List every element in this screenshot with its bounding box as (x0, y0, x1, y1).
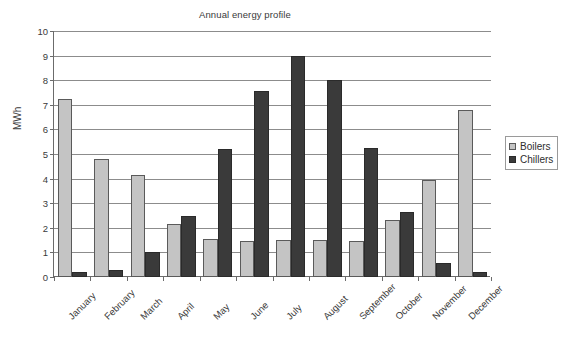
bar-chillers-february[interactable] (109, 270, 124, 277)
x-tick-label-august: August (321, 293, 350, 322)
bar-boilers-november[interactable] (422, 180, 437, 277)
chart-title: Annual energy profile (0, 9, 490, 20)
bar-boilers-may[interactable] (203, 239, 218, 277)
x-tick-mark (90, 277, 91, 281)
bar-chillers-october[interactable] (400, 212, 415, 277)
bar-chillers-august[interactable] (327, 80, 342, 277)
x-tick-mark (491, 277, 492, 281)
legend-item-boilers[interactable]: Boilers (509, 140, 553, 153)
bar-group (90, 31, 126, 277)
y-tick-label: 6 (43, 124, 48, 135)
x-tick-mark (54, 277, 55, 281)
legend-swatch-chillers-icon (509, 156, 516, 163)
y-tick-label: 2 (43, 222, 48, 233)
x-tick-label-april: April (175, 301, 196, 322)
y-axis-label: MWh (12, 107, 23, 130)
bar-group (127, 31, 163, 277)
x-tick-label-july: July (284, 302, 304, 322)
bar-chillers-july[interactable] (291, 56, 306, 277)
bar-group (200, 31, 236, 277)
bar-group (418, 31, 454, 277)
bar-group (309, 31, 345, 277)
y-tick-label: 9 (43, 50, 48, 61)
bar-group (345, 31, 381, 277)
legend-label: Boilers (520, 141, 551, 152)
y-tick-label: 1 (43, 247, 48, 258)
x-tick-label-november: November (430, 283, 469, 322)
x-tick-mark (127, 277, 128, 281)
bar-group (236, 31, 272, 277)
bar-boilers-july[interactable] (276, 240, 291, 277)
x-tick-label-december: December (466, 283, 505, 322)
x-tick-mark (382, 277, 383, 281)
bar-chillers-may[interactable] (218, 149, 233, 277)
x-tick-mark (309, 277, 310, 281)
bar-boilers-december[interactable] (458, 110, 473, 277)
y-tick-label: 0 (43, 272, 48, 283)
y-tick-label: 10 (37, 26, 48, 37)
x-tick-mark (236, 277, 237, 281)
x-tick-label-january: January (66, 290, 98, 322)
y-tick-label: 7 (43, 99, 48, 110)
bars-layer (54, 31, 491, 277)
bar-group (54, 31, 90, 277)
bar-boilers-august[interactable] (313, 240, 328, 277)
bar-boilers-january[interactable] (58, 99, 73, 277)
bar-chillers-june[interactable] (254, 91, 269, 277)
bar-boilers-june[interactable] (240, 241, 255, 277)
x-tick-label-may: May (211, 301, 231, 321)
bar-boilers-april[interactable] (167, 224, 182, 277)
bar-chillers-september[interactable] (364, 148, 379, 277)
x-tick-label-february: February (102, 287, 137, 322)
x-tick-label-june: June (248, 299, 270, 321)
bar-chillers-december[interactable] (473, 272, 488, 277)
legend-item-chillers[interactable]: Chillers (509, 153, 553, 166)
bar-chillers-april[interactable] (181, 216, 196, 278)
bar-boilers-october[interactable] (385, 220, 400, 277)
y-tick-label: 8 (43, 75, 48, 86)
x-tick-label-october: October (393, 290, 425, 322)
bar-group (163, 31, 199, 277)
y-tick-label: 4 (43, 173, 48, 184)
x-tick-mark (345, 277, 346, 281)
x-tick-mark (418, 277, 419, 281)
bar-chillers-january[interactable] (72, 272, 87, 277)
chart-legend: BoilersChillers (505, 136, 558, 170)
plot-area: 012345678910 JanuaryFebruaryMarchAprilMa… (53, 31, 490, 277)
bar-boilers-february[interactable] (94, 159, 109, 277)
bar-group (455, 31, 491, 277)
legend-label: Chillers (520, 154, 553, 165)
legend-swatch-boilers-icon (509, 143, 516, 150)
x-tick-label-march: March (138, 295, 164, 321)
bar-group (382, 31, 418, 277)
x-tick-mark (200, 277, 201, 281)
x-tick-mark (163, 277, 164, 281)
bar-boilers-september[interactable] (349, 241, 364, 277)
y-tick-label: 3 (43, 198, 48, 209)
x-tick-mark (273, 277, 274, 281)
bar-chillers-november[interactable] (436, 263, 451, 277)
y-tick-label: 5 (43, 149, 48, 160)
bar-boilers-march[interactable] (131, 175, 146, 277)
x-tick-label-september: September (357, 281, 398, 322)
bar-chillers-march[interactable] (145, 252, 160, 277)
x-tick-mark (455, 277, 456, 281)
bar-group (273, 31, 309, 277)
